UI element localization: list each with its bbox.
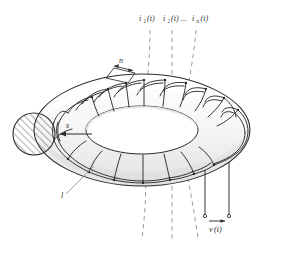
voltage-symbol: v [209, 225, 213, 234]
toroidal-coil-figure: s n l i 1 (t) i 2 (t) ... i n (t) [0, 0, 284, 257]
cross-section-symbol [13, 113, 55, 155]
terminal-dot-right [227, 214, 230, 217]
current-n-argument: (t) [201, 14, 209, 23]
voltage-argument: (t) [214, 225, 222, 234]
turns-label: n [119, 56, 123, 65]
length-label: l [61, 191, 64, 200]
current-1-argument: (t) [147, 14, 155, 23]
current-2-argument: (t) [171, 14, 179, 23]
label-current-2: i 2 (t) [163, 14, 179, 24]
current-n-subscript: n [197, 18, 200, 24]
label-voltage: v (t) [209, 225, 222, 234]
label-ellipsis: ... [181, 14, 187, 23]
terminal-dot-left [203, 214, 206, 217]
voltage-arrow-head [221, 219, 226, 223]
current-2-symbol: i [163, 14, 165, 23]
current-1-symbol: i [139, 14, 141, 23]
label-current-n: i n (t) [192, 14, 208, 24]
torus-body [34, 74, 250, 186]
cross-section-label: s [66, 121, 69, 130]
label-current-1: i 1 (t) [139, 14, 155, 24]
current-n-symbol: i [192, 14, 194, 23]
cross-section-circle [13, 113, 55, 155]
